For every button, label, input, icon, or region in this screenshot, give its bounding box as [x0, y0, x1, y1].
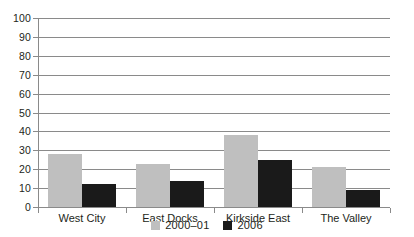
y-tick-label-wrap: 40	[0, 126, 31, 137]
plot-area	[38, 18, 390, 207]
legend-swatch-icon	[151, 221, 160, 230]
bar	[346, 190, 380, 207]
bar-chart: 0102030405060708090100 West CityEast Doc…	[0, 0, 414, 237]
y-tick-label: 40	[3, 126, 31, 137]
chart-legend: 2000–012006	[0, 219, 414, 231]
bar	[48, 154, 82, 207]
bar	[224, 135, 258, 207]
legend-swatch-icon	[223, 221, 232, 230]
bars-layer	[38, 18, 390, 207]
y-tick-label-wrap: 70	[0, 70, 31, 81]
legend-label: 2006	[237, 219, 262, 231]
y-tick-label-wrap: 20	[0, 164, 31, 175]
y-tick-label: 100	[3, 13, 31, 24]
y-tick-label-wrap: 100	[0, 13, 31, 24]
bar	[170, 181, 204, 207]
y-tick-label-wrap: 80	[0, 51, 31, 62]
legend-item: 2006	[223, 219, 262, 231]
y-tick-label: 80	[3, 51, 31, 62]
y-tick-label: 70	[3, 70, 31, 81]
y-tick-label: 60	[3, 89, 31, 100]
y-tick-label: 90	[3, 32, 31, 43]
y-tick-label-wrap: 30	[0, 145, 31, 156]
y-tick-label-wrap: 90	[0, 32, 31, 43]
y-tick-label-wrap: 10	[0, 183, 31, 194]
y-tick-label-wrap: 60	[0, 89, 31, 100]
bar	[312, 167, 346, 207]
y-tick-label: 10	[3, 183, 31, 194]
bar	[258, 160, 292, 207]
y-tick-label: 50	[3, 108, 31, 119]
bar	[82, 184, 116, 207]
y-tick-label-wrap: 50	[0, 108, 31, 119]
legend-label: 2000–01	[165, 219, 209, 231]
y-tick-label: 20	[3, 164, 31, 175]
legend-item: 2000–01	[151, 219, 209, 231]
bar	[136, 164, 170, 207]
y-tick-label: 30	[3, 145, 31, 156]
